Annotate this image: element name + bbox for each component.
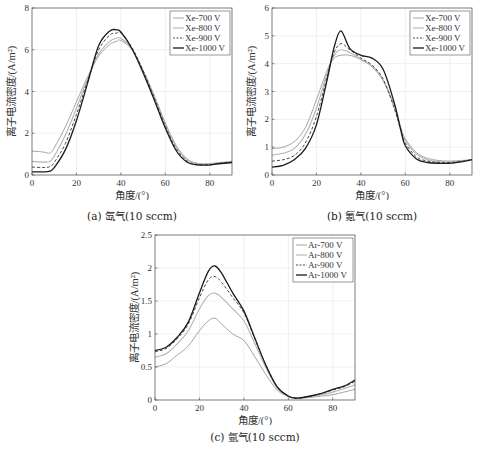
x-axis-label: 角度/(°) [355, 189, 390, 200]
y-tick-label: 2 [148, 263, 153, 273]
legend-label: Xe-800 V [185, 23, 221, 33]
legend: Xe-700 VXe-800 VXe-900 VXe-1000 V [410, 11, 470, 55]
x-tick-label: 80 [328, 403, 338, 413]
y-tick-label: 0 [265, 170, 270, 180]
y-axis-label: 离子电流密度/(A/m²) [5, 45, 18, 137]
y-axis-label: 离子电流密度/(A/m²) [245, 45, 258, 137]
x-tick-label: 60 [401, 178, 411, 188]
chart-c: 02040608000.511.522.5角度/(°)离子电流密度/(A/m²)… [120, 225, 360, 454]
x-tick-label: 0 [270, 178, 275, 188]
chart-a-svg: 02040608002468角度/(°)离子电流密度/(A/m²)Xe-700 … [0, 0, 240, 200]
y-axis-label: 离子电流密度/(A/m²) [128, 271, 141, 363]
y-tick-label: 0.5 [141, 362, 153, 372]
legend-label: Xe-700 V [425, 13, 461, 23]
y-tick-label: 2 [265, 114, 270, 124]
legend-label: Ar-900 V [308, 260, 343, 270]
x-tick-label: 60 [161, 178, 171, 188]
y-tick-label: 2 [25, 128, 30, 138]
y-tick-label: 0 [148, 395, 153, 405]
legend-label: Ar-700 V [308, 240, 343, 250]
legend-label: Xe-900 V [425, 33, 461, 43]
x-tick-label: 60 [284, 403, 294, 413]
y-tick-label: 5 [265, 31, 270, 41]
x-tick-label: 0 [30, 178, 35, 188]
legend-label: Xe-800 V [425, 23, 461, 33]
x-tick-label: 20 [312, 178, 322, 188]
legend-label: Xe-1000 V [425, 43, 466, 53]
y-tick-label: 3 [265, 87, 270, 97]
chart-b: 0204060800123456角度/(°)离子电流密度/(A/m²)Xe-70… [240, 0, 480, 225]
chart-c-caption: (c) 氩气(10 sccm) [120, 429, 390, 444]
x-axis-label: 角度/(°) [115, 189, 150, 200]
x-tick-label: 20 [72, 178, 82, 188]
y-tick-label: 1.5 [141, 296, 153, 306]
chart-a-caption: (a) 氙气(10 sccm) [0, 208, 264, 223]
y-tick-label: 1 [148, 329, 153, 339]
y-tick-label: 0 [25, 170, 30, 180]
chart-b-caption: (b) 氪气(10 sccm) [240, 208, 480, 223]
x-axis-label: 角度/(°) [238, 414, 273, 425]
y-tick-label: 6 [25, 45, 30, 55]
y-tick-label: 2.5 [141, 230, 153, 240]
x-tick-label: 40 [116, 178, 126, 188]
legend: Ar-700 VAr-800 VAr-900 VAr-1000 V [293, 238, 353, 282]
legend: Xe-700 VXe-800 VXe-900 VXe-1000 V [170, 11, 230, 55]
y-tick-label: 1 [265, 142, 270, 152]
y-tick-label: 4 [25, 87, 30, 97]
legend-label: Xe-700 V [185, 13, 221, 23]
y-tick-label: 4 [265, 59, 270, 69]
legend-label: Xe-900 V [185, 33, 221, 43]
y-tick-label: 8 [25, 3, 30, 13]
x-tick-label: 80 [445, 178, 455, 188]
legend-label: Ar-1000 V [308, 270, 347, 280]
y-tick-label: 6 [265, 3, 270, 13]
x-tick-label: 20 [195, 403, 205, 413]
chart-c-svg: 02040608000.511.522.5角度/(°)离子电流密度/(A/m²)… [120, 225, 360, 425]
chart-b-svg: 0204060800123456角度/(°)离子电流密度/(A/m²)Xe-70… [240, 0, 480, 200]
x-tick-label: 80 [205, 178, 215, 188]
x-tick-label: 0 [153, 403, 158, 413]
legend-label: Ar-800 V [308, 250, 343, 260]
chart-a: 02040608002468角度/(°)离子电流密度/(A/m²)Xe-700 … [0, 0, 240, 225]
x-tick-label: 40 [356, 178, 366, 188]
legend-label: Xe-1000 V [185, 43, 226, 53]
x-tick-label: 40 [239, 403, 249, 413]
